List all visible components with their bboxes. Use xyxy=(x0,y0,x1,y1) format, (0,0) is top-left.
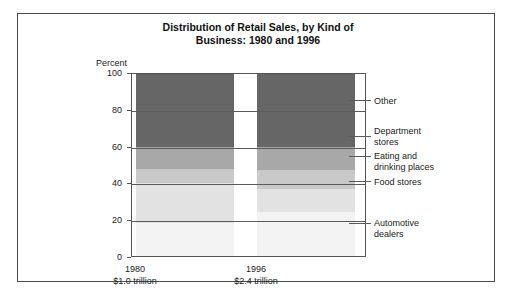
x-tick-year-1996: 1996 xyxy=(196,263,316,275)
category-label-department-stores: Department stores xyxy=(374,126,421,148)
y-tick-label-100: 100 xyxy=(96,69,122,78)
y-tick-label-20: 20 xyxy=(96,216,122,225)
segment-1996-automotive-dealers xyxy=(257,212,355,256)
y-tick-label-40: 40 xyxy=(96,179,122,188)
leader-line-food-stores xyxy=(349,181,371,182)
y-tick-mark-0 xyxy=(127,257,131,258)
leader-line-other xyxy=(349,100,371,101)
y-axis-title: Percent xyxy=(96,58,127,68)
category-label-automotive-dealers: Automotive dealers xyxy=(374,218,419,240)
segment-1980-automotive-dealers xyxy=(136,223,234,256)
category-label-other: Other xyxy=(374,96,397,107)
segment-1980-department-stores xyxy=(136,147,234,169)
y-tick-label-60: 60 xyxy=(96,143,122,152)
chart-title: Distribution of Retail Sales, by Kind of… xyxy=(118,21,398,47)
segment-1996-department-stores xyxy=(257,147,355,171)
category-label-food-stores-line-1: Food stores xyxy=(374,177,422,188)
x-tick-amount-1996: $2.4 trillion xyxy=(196,275,316,287)
gridline-20 xyxy=(132,221,365,222)
category-label-eating-and-drinking-places-line-2: drinking places xyxy=(374,162,434,173)
category-label-department-stores-line-1: Department xyxy=(374,126,421,137)
category-label-food-stores: Food stores xyxy=(374,177,422,188)
segment-1980-food-stores xyxy=(136,183,234,223)
figure-frame: Distribution of Retail Sales, by Kind of… xyxy=(17,13,495,282)
y-tick-label-0: 0 xyxy=(96,253,122,262)
leader-line-eating-and-drinking-places xyxy=(349,156,371,157)
leader-line-department-stores xyxy=(349,136,371,137)
chart-title-line-1: Distribution of Retail Sales, by Kind of xyxy=(118,21,398,34)
y-tick-label-80: 80 xyxy=(96,106,122,115)
segment-1996-food-stores xyxy=(257,189,355,213)
chart-title-line-2: Business: 1980 and 1996 xyxy=(118,34,398,47)
plot-area xyxy=(131,73,366,257)
category-label-eating-and-drinking-places-line-1: Eating and xyxy=(374,151,434,162)
segment-1980-eating-and-drinking-places xyxy=(136,169,234,184)
segment-1996-eating-and-drinking-places xyxy=(257,170,355,188)
bar-stack-1980[interactable] xyxy=(136,74,234,256)
gridline-40 xyxy=(132,184,365,185)
category-label-automotive-dealers-line-2: dealers xyxy=(374,229,419,240)
category-label-department-stores-line-2: stores xyxy=(374,137,421,148)
category-label-eating-and-drinking-places: Eating and drinking places xyxy=(374,151,434,173)
category-label-automotive-dealers-line-1: Automotive xyxy=(374,218,419,229)
x-tick-label-1996: 1996 $2.4 trillion xyxy=(196,263,316,287)
gridline-60 xyxy=(132,148,365,149)
gridline-80 xyxy=(132,111,365,112)
category-label-other-line-1: Other xyxy=(374,96,397,107)
x-tick-amount-1980: $1.0 trillion xyxy=(75,275,195,287)
x-tick-year-1980: 1980 xyxy=(75,263,195,275)
bar-stack-1996[interactable] xyxy=(257,74,355,256)
leader-line-automotive-dealers xyxy=(349,223,371,224)
x-tick-label-1980: 1980 $1.0 trillion xyxy=(75,263,195,287)
